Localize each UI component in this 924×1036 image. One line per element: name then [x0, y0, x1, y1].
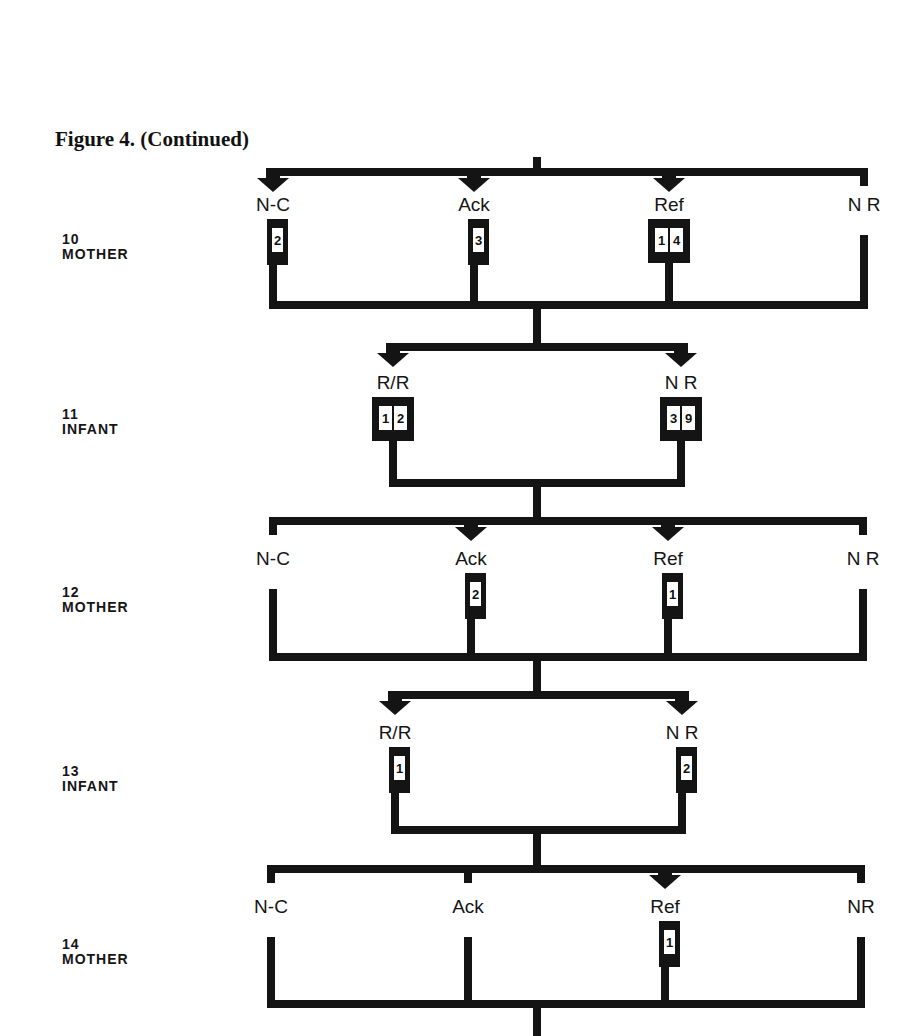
option-label: N-C	[254, 896, 288, 917]
count-digit: 1	[382, 411, 389, 426]
top-bar	[267, 865, 865, 873]
count-digit: 9	[685, 411, 692, 426]
option-label: N-C	[256, 548, 290, 569]
bottom-bar	[269, 301, 868, 309]
down-arrow-icon	[377, 353, 409, 367]
option-line	[269, 589, 277, 661]
option-line	[661, 965, 669, 1008]
option-line	[389, 439, 397, 487]
option-label: N-C	[256, 194, 290, 215]
count-box	[660, 397, 702, 441]
count-value: 2	[683, 761, 690, 776]
count-value: 1	[666, 935, 673, 950]
count-value: 2	[274, 233, 281, 248]
top-bar	[269, 168, 868, 176]
option-label: N R	[666, 722, 699, 743]
option-line	[860, 235, 868, 309]
option-line	[464, 937, 472, 1008]
option-label: R/R	[377, 372, 410, 393]
count-digit: 3	[670, 411, 677, 426]
count-value: 1	[396, 761, 403, 776]
flow-diagram: N-C2Ack3Ref14N RR/R12N R39N-CAck2Ref1N R…	[0, 0, 924, 1036]
top-bar	[269, 517, 867, 525]
count-digit: 4	[673, 233, 681, 248]
bottom-bar	[267, 1000, 865, 1008]
option-label: N R	[848, 194, 881, 215]
option-label: R/R	[379, 722, 412, 743]
option-line	[857, 937, 865, 1008]
down-arrow-icon	[652, 527, 684, 541]
option-line	[269, 263, 277, 309]
bottom-bar	[269, 653, 867, 661]
stub-connector	[269, 517, 277, 535]
option-line	[267, 937, 275, 1008]
option-label: Ack	[458, 194, 490, 215]
count-box	[648, 219, 690, 263]
down-arrow-icon	[455, 527, 487, 541]
option-line	[470, 263, 478, 309]
option-label: Ack	[455, 548, 487, 569]
option-line	[467, 617, 475, 661]
down-arrow-icon	[458, 178, 490, 192]
count-box	[372, 397, 414, 441]
trunk-stem	[533, 1000, 541, 1036]
count-value: 3	[475, 233, 482, 248]
option-label: N R	[847, 548, 880, 569]
option-label: NR	[847, 896, 874, 917]
count-value: 2	[472, 587, 479, 602]
stub-connector	[859, 517, 867, 535]
option-label: Ref	[650, 896, 680, 917]
option-line	[678, 791, 686, 834]
stub-connector	[267, 865, 275, 883]
down-arrow-icon	[665, 353, 697, 367]
stub-connector	[857, 865, 865, 883]
top-bar	[389, 343, 685, 351]
down-arrow-icon	[257, 178, 289, 192]
count-digit: 2	[397, 411, 404, 426]
count-digit: 1	[658, 233, 665, 248]
down-arrow-icon	[666, 701, 698, 715]
option-line	[677, 439, 685, 487]
option-line	[664, 617, 672, 661]
down-arrow-icon	[649, 875, 681, 889]
top-bar	[391, 691, 686, 699]
option-label: Ref	[654, 194, 684, 215]
option-line	[391, 791, 399, 834]
option-label: N R	[665, 372, 698, 393]
stub-connector	[464, 865, 472, 883]
down-arrow-icon	[379, 701, 411, 715]
stub-connector	[860, 168, 868, 186]
count-value: 1	[669, 587, 676, 602]
option-line	[859, 589, 867, 661]
down-arrow-icon	[653, 178, 685, 192]
option-line	[665, 261, 673, 309]
option-label: Ack	[452, 896, 484, 917]
option-label: Ref	[653, 548, 683, 569]
